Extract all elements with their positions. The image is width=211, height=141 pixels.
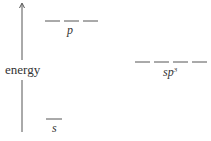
sp3-label-base: sp (163, 65, 174, 79)
s-level-label: s (52, 122, 57, 134)
energy-axis-label: energy (5, 64, 40, 76)
sp3-label-superscript: 3 (174, 66, 178, 74)
p-level-label: p (67, 24, 73, 36)
sp3-level-label: sp3 (163, 66, 177, 78)
